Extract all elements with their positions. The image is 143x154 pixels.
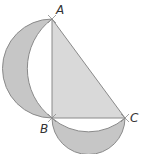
label-a: A xyxy=(55,3,64,17)
geometry-diagram: A B C xyxy=(0,0,143,154)
triangle-abc xyxy=(52,19,125,118)
left-lune xyxy=(2,19,52,118)
diagram-svg: A B C xyxy=(0,0,143,154)
label-c: C xyxy=(130,111,139,125)
label-b: B xyxy=(40,122,48,136)
bottom-lune xyxy=(52,118,125,154)
